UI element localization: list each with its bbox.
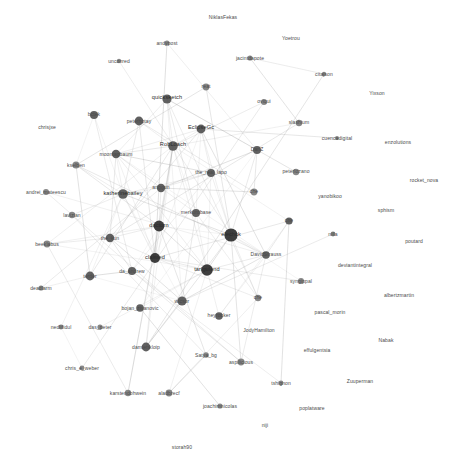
graph-node[interactable]: [217, 403, 222, 408]
graph-node[interactable]: [69, 212, 75, 218]
graph-node[interactable]: [117, 59, 121, 63]
graph-edge: [206, 87, 231, 235]
graph-edge: [76, 165, 90, 276]
graph-edge: [155, 258, 301, 281]
graph-node[interactable]: [262, 251, 270, 259]
graph-node[interactable]: [106, 234, 114, 242]
graph-edge: [76, 165, 266, 255]
graph-node[interactable]: [255, 295, 261, 301]
graph-node[interactable]: [59, 325, 64, 330]
graph-edge: [281, 221, 289, 383]
graph-edge: [90, 276, 182, 301]
graph-edge: [196, 213, 258, 298]
graph-edge: [182, 255, 266, 301]
graph-edge: [161, 188, 254, 192]
graph-node[interactable]: [97, 324, 102, 329]
graph-node[interactable]: [154, 221, 165, 232]
graph-node[interactable]: [207, 169, 215, 177]
graph-node[interactable]: [136, 304, 144, 312]
graph-node[interactable]: [203, 84, 210, 91]
graph-edge: [47, 226, 159, 244]
graph-edge: [182, 213, 196, 301]
graph-node[interactable]: [298, 278, 304, 284]
graph-node[interactable]: [331, 232, 336, 237]
graph-node[interactable]: [164, 40, 169, 45]
graph-edge: [140, 308, 220, 406]
graph-node[interactable]: [86, 272, 95, 281]
graph-edge: [123, 194, 155, 258]
graph-edge: [159, 226, 206, 355]
graph-node[interactable]: [293, 169, 299, 175]
graph-edge: [76, 87, 206, 165]
graph-edge: [146, 74, 324, 347]
graph-node[interactable]: [279, 381, 284, 386]
graph-edge: [155, 129, 201, 258]
graph-node[interactable]: [38, 285, 43, 290]
graph-node[interactable]: [253, 146, 261, 154]
graph-edge: [110, 129, 201, 238]
graph-node[interactable]: [247, 55, 252, 60]
graph-node[interactable]: [162, 94, 171, 103]
graph-node[interactable]: [168, 141, 178, 151]
graph-node[interactable]: [72, 161, 79, 168]
graph-edge: [201, 129, 337, 138]
graph-node[interactable]: [238, 359, 245, 366]
graph-node[interactable]: [285, 217, 292, 224]
graph-node[interactable]: [251, 189, 258, 196]
graph-edge: [167, 99, 296, 172]
graph-node[interactable]: [197, 125, 206, 134]
graph-node[interactable]: [261, 99, 267, 105]
graph-edge: [76, 165, 123, 194]
graph-node[interactable]: [112, 150, 120, 158]
graph-node[interactable]: [150, 253, 160, 263]
graph-node[interactable]: [215, 312, 223, 320]
graph-node[interactable]: [296, 120, 302, 126]
graph-edge: [167, 99, 258, 298]
graph-edge: [250, 58, 324, 74]
graph-edge: [76, 115, 94, 165]
graph-node[interactable]: [44, 241, 51, 248]
graph-edge: [116, 129, 201, 154]
graph-edge: [90, 271, 132, 276]
graph-node[interactable]: [90, 111, 98, 119]
graph-node[interactable]: [203, 352, 209, 358]
graph-node[interactable]: [142, 343, 151, 352]
graph-edge: [169, 298, 258, 393]
graph-node[interactable]: [335, 136, 339, 140]
graph-node[interactable]: [157, 184, 165, 192]
graph-edge: [201, 129, 231, 235]
graph-edge: [254, 150, 257, 192]
graph-node[interactable]: [118, 189, 128, 199]
graph-node[interactable]: [125, 390, 131, 396]
graph-node[interactable]: [192, 209, 200, 217]
edge-layer: [41, 43, 337, 406]
graph-edge: [76, 165, 159, 226]
graph-node[interactable]: [135, 117, 144, 126]
graph-node[interactable]: [128, 267, 136, 275]
graph-edge: [167, 43, 257, 150]
graph-edge: [250, 58, 299, 123]
graph-edge: [116, 99, 167, 154]
graph-node[interactable]: [224, 228, 237, 241]
graph-node[interactable]: [177, 296, 186, 305]
graph-node[interactable]: [201, 264, 213, 276]
graph-edge: [123, 188, 161, 194]
graph-node[interactable]: [166, 390, 173, 397]
graph-edge: [110, 226, 159, 238]
graph-edge: [207, 270, 219, 316]
graph-node[interactable]: [43, 189, 49, 195]
graph-edge: [90, 194, 123, 276]
graph-node[interactable]: [80, 366, 85, 371]
graph-edge: [47, 146, 173, 244]
graph-edge: [211, 173, 231, 235]
graph-edge: [61, 327, 82, 368]
network-graph-canvas: [0, 0, 457, 461]
network-graph-figure: NiklasFekasYoetrouYixsonandypostunconred…: [0, 0, 457, 461]
graph-edge: [155, 221, 289, 258]
graph-edge: [116, 154, 123, 194]
graph-node[interactable]: [322, 72, 326, 76]
graph-edge: [169, 355, 206, 393]
graph-edge: [201, 129, 211, 173]
graph-edge: [266, 221, 289, 255]
graph-edge: [132, 173, 211, 271]
